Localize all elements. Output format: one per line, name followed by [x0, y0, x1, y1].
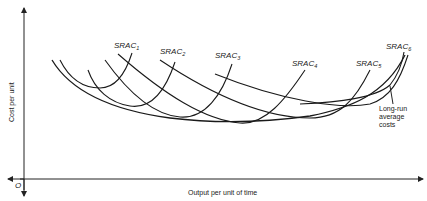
y-axis-label: Cost per unit	[8, 82, 16, 122]
srac-6-label: SRAC6	[386, 42, 412, 52]
srac-6-curve-upper	[300, 52, 404, 104]
axes	[8, 8, 423, 196]
srac-1-label: SRAC1	[114, 41, 139, 51]
lrac-label: Long-run average costs	[379, 105, 409, 128]
srac-2-label: SRAC2	[160, 47, 185, 57]
x-axis-label: Output per unit of time	[188, 189, 257, 197]
lrac-curve	[52, 55, 405, 122]
srac-3-label: SRAC3	[215, 51, 241, 61]
origin-label: O	[15, 181, 21, 190]
cost-curves-diagram: O Cost per unit Output per unit of time …	[0, 0, 427, 201]
srac-5-label: SRAC5	[356, 59, 382, 69]
srac-4-curve	[118, 54, 305, 123]
srac-4-label: SRAC4	[292, 59, 317, 69]
srac-1-curve	[60, 53, 132, 88]
